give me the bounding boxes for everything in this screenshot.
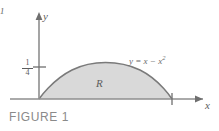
y-axis-arrowhead [36, 12, 43, 20]
x-axis-arrowhead [195, 96, 203, 103]
y-axis-label: y [43, 11, 48, 22]
curve-equation-exponent: 2 [162, 54, 165, 61]
x-axis-label: x [205, 100, 210, 111]
region-label-r: R [96, 78, 103, 89]
fraction-denominator: 4 [21, 69, 34, 78]
curve-equation-base: y = x − x [129, 56, 162, 66]
fraction-numerator: 1 [21, 59, 34, 68]
figure-caption: FIGURE 1 [9, 110, 69, 124]
curve-equation-label: y = x − x2 [129, 55, 165, 66]
y-tick-label-one-quarter: 1 4 [21, 59, 34, 77]
figure-container: y x R y = x − x2 1 1 4 FIGURE 1 [0, 0, 219, 131]
shaded-region-area [39, 63, 172, 100]
